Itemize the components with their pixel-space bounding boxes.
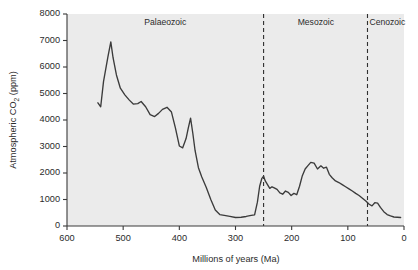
era-palaeozoic: Palaeozoic [144,17,187,27]
x-tick-label: 300 [228,233,243,243]
svg-text:Atmospheric CO2 (ppm): Atmospheric CO2 (ppm) [8,71,20,169]
x-tick-label: 600 [59,233,74,243]
chart-canvas: 010002000300040005000600070008000 600500… [0,0,418,270]
y-tick-label: 6000 [40,61,60,71]
y-tick-label: 2000 [40,167,60,177]
y-axis-title: Atmospheric CO2 (ppm) [8,71,20,169]
x-tick-label: 100 [340,233,355,243]
x-tick-label: 500 [115,233,130,243]
x-tick-label: 200 [284,233,299,243]
y-tick-label: 5000 [40,88,60,98]
y-tick-label: 3000 [40,141,60,151]
y-axis-ticks: 010002000300040005000600070008000 [40,8,67,230]
y-tick-label: 1000 [40,194,60,204]
y-axis-title-main: Atmospheric CO [8,101,18,168]
x-axis-ticks: 6005004003002001000 [59,226,406,243]
y-tick-label: 4000 [40,114,60,124]
x-axis-title: Millions of years (Ma) [192,254,279,264]
x-tick-label: 400 [172,233,187,243]
era-cenozoic: Cenozoic [369,17,406,27]
y-tick-label: 0 [55,220,60,230]
era-mesozoic: Mesozoic [298,17,335,27]
y-axis-title-unit: (ppm) [8,71,18,98]
y-tick-label: 7000 [40,35,60,45]
y-tick-label: 8000 [40,8,60,18]
co2-history-chart-figure: 010002000300040005000600070008000 600500… [0,0,418,270]
plot-area-background [67,14,404,226]
x-tick-label: 0 [401,233,406,243]
